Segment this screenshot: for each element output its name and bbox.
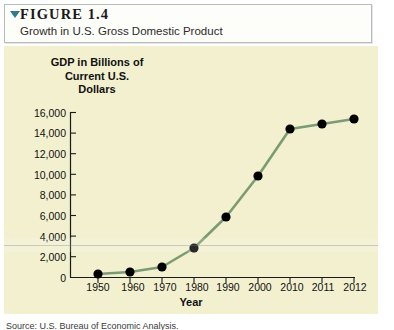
data-point — [157, 262, 166, 271]
figure-number: FIGURE 1.4 — [20, 6, 109, 23]
chart-panel: GDP in Billions of Current U.S. Dollars … — [4, 46, 378, 314]
plot-area: 16,000 14,000 12,000 10,000 8,000 6,000 … — [4, 46, 378, 314]
data-point — [221, 212, 230, 221]
data-point — [93, 269, 102, 278]
data-point — [253, 171, 262, 180]
data-points — [93, 114, 358, 278]
figure-header: FIGURE 1.4 Growth in U.S. Gross Domestic… — [4, 4, 372, 43]
data-point — [125, 267, 134, 276]
data-line — [98, 119, 354, 274]
data-point — [285, 124, 294, 133]
triangle-down-icon — [10, 11, 20, 18]
figure-caption: Growth in U.S. Gross Domestic Product — [20, 25, 223, 37]
chart-svg — [4, 46, 378, 314]
data-point — [189, 243, 198, 252]
data-point — [349, 114, 358, 123]
data-point — [317, 119, 326, 128]
source-note: Source: U.S. Bureau of Economic Analysis… — [6, 321, 336, 330]
